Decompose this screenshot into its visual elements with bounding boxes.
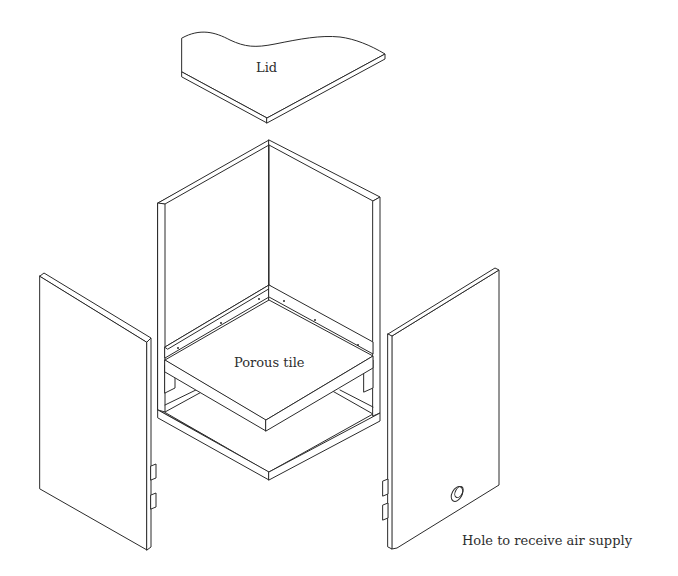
right-side-panel-part — [383, 268, 499, 549]
left-side-panel-part — [40, 273, 156, 550]
lid-part — [182, 32, 385, 123]
exploded-box-diagram — [0, 0, 678, 576]
lid-label: Lid — [256, 61, 277, 74]
air-hole-label: Hole to receive air supply — [462, 534, 632, 547]
porous-tile-label: Porous tile — [234, 356, 305, 369]
